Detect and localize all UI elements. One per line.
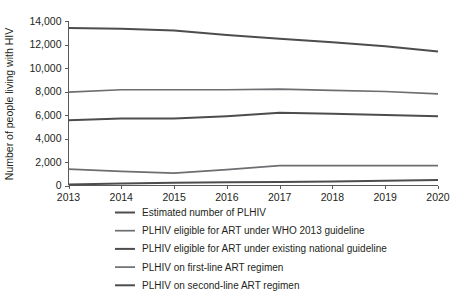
- x-tick-label: 2017: [268, 191, 292, 203]
- x-tick-label: 2018: [321, 191, 345, 203]
- series-line-1: [69, 28, 439, 52]
- y-axis-ticks: 02,0004,0006,0008,00010,00012,00014,000: [29, 15, 68, 192]
- y-tick-label: 6,000: [35, 109, 61, 121]
- series-line-4: [69, 166, 439, 174]
- y-tick-label: 12,000: [29, 38, 61, 50]
- x-tick-label: 2019: [374, 191, 398, 203]
- x-tick-label: 2020: [426, 191, 450, 203]
- series-line-5: [69, 180, 439, 185]
- legend-label-4: PLHIV on first-line ART regimen: [142, 262, 283, 273]
- y-tick-label: 2,000: [35, 156, 61, 168]
- y-tick-label: 8,000: [35, 85, 61, 97]
- series-line-2: [69, 89, 439, 94]
- chart-canvas: Number of people living with HIV 02,0004…: [0, 0, 455, 297]
- x-tick-label: 2016: [215, 191, 239, 203]
- y-axis-title: Number of people living with HIV: [3, 28, 15, 180]
- line-chart-figure: Number of people living with HIV 02,0004…: [0, 0, 455, 297]
- series-line-3: [69, 113, 439, 121]
- legend-label-3: PLHIV eligible for ART under existing na…: [142, 243, 387, 254]
- y-tick-label: 14,000: [29, 15, 61, 27]
- x-tick-label: 2015: [162, 191, 186, 203]
- y-tick-label: 10,000: [29, 62, 61, 74]
- legend-label-5: PLHIV on second-line ART regimen: [142, 280, 300, 291]
- legend-label-2: PLHIV eligible for ART under WHO 2013 gu…: [142, 225, 365, 236]
- x-tick-label: 2013: [57, 191, 81, 203]
- y-axis-title-text: Number of people living with HIV: [3, 28, 15, 180]
- y-tick-label: 4,000: [35, 132, 61, 144]
- x-tick-label: 2014: [110, 191, 134, 203]
- chart-legend: Estimated number of PLHIVPLHIV eligible …: [115, 207, 387, 291]
- series-lines: [69, 28, 439, 185]
- x-axis-ticks: 20132014201520162017201820192020: [57, 186, 450, 203]
- legend-label-1: Estimated number of PLHIV: [142, 207, 266, 218]
- y-tick-label: 0: [56, 179, 62, 191]
